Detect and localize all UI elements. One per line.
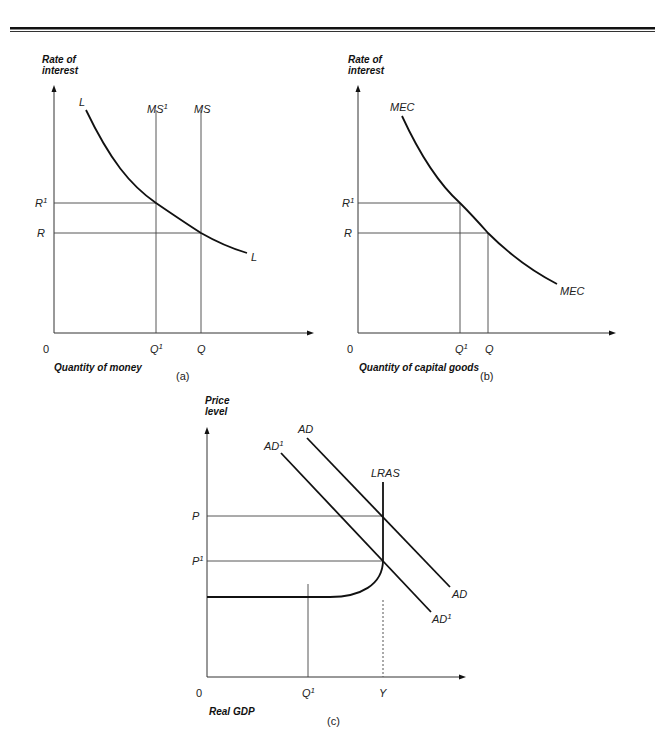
panel-b-origin: 0	[347, 343, 353, 355]
panel-c-ad1-top-label: AD1	[263, 439, 284, 452]
panel-c-ad-bottom-label: AD	[451, 588, 467, 600]
panel-a-money-market: Rate of interest L L MS1 MS R1 R 0 Q1 Q …	[35, 54, 314, 382]
panel-c-x-arrow-icon	[459, 675, 466, 680]
panel-c-xlabel: Real GDP	[209, 706, 255, 717]
panel-a-y-arrow-icon	[52, 85, 57, 92]
panel-a-origin: 0	[43, 343, 49, 355]
panel-b-investment: Rate of interest MEC MEC R1 R 0 Q1 Q Qua…	[342, 54, 616, 382]
figure: Rate of interest L L MS1 MS R1 R 0 Q1 Q …	[0, 0, 665, 751]
panel-b-r-label: R	[344, 227, 352, 239]
panel-a-ylabel-line2: interest	[42, 65, 79, 76]
panel-b-x-arrow-icon	[609, 331, 616, 336]
panel-a-ms-label: MS	[194, 103, 211, 115]
panel-c-origin: 0	[196, 687, 202, 699]
panel-a-r1-label: R1	[35, 196, 47, 209]
panel-b-r1-label: R1	[342, 196, 354, 209]
panel-c-q1-label: Q1	[302, 686, 315, 699]
panel-a-q-label: Q	[197, 343, 206, 355]
panel-a-l-curve	[86, 110, 247, 253]
panel-b-ylabel-line2: interest	[348, 65, 385, 76]
panel-a-caption: (a)	[176, 370, 189, 382]
panel-a-xlabel: Quantity of money	[54, 362, 142, 373]
panel-a-l-bottom-label: L	[251, 251, 257, 263]
panel-b-q1-label: Q1	[455, 342, 468, 355]
panel-c-y-arrow-icon	[205, 427, 210, 434]
panel-a-r-label: R	[37, 227, 45, 239]
panel-b-ylabel-line1: Rate of	[348, 54, 384, 65]
panel-c-p1-label: P1	[192, 554, 204, 567]
panel-c-ylabel-line1: Price	[205, 395, 230, 406]
panel-c-ad-as: Price level AD AD1 LRAS AD AD1 P P1 0 Q1…	[192, 395, 467, 727]
panel-c-caption: (c)	[327, 715, 340, 727]
panel-b-caption: (b)	[480, 370, 493, 382]
panel-c-ad1-bottom-label: AD1	[431, 612, 452, 625]
panel-b-xlabel: Quantity of capital goods	[359, 362, 479, 373]
panel-b-mec-top-label: MEC	[390, 101, 415, 113]
panel-c-ad-top-label: AD	[297, 423, 313, 435]
panel-a-x-arrow-icon	[307, 331, 314, 336]
panel-a-q1-label: Q1	[150, 342, 163, 355]
panel-c-ad1-line	[281, 453, 431, 612]
panel-c-ylabel-line2: level	[205, 406, 227, 417]
panel-a-l-top-label: L	[79, 96, 85, 108]
panel-a-ylabel-line1: Rate of	[42, 54, 78, 65]
panel-b-y-arrow-icon	[356, 85, 361, 92]
panel-c-lras-label: LRAS	[371, 467, 400, 479]
panel-c-lras-curve	[207, 482, 383, 597]
panel-a-ms1-label: MS1	[147, 102, 168, 115]
panel-b-mec-bottom-label: MEC	[560, 285, 585, 297]
panel-c-y-label: Y	[379, 687, 387, 699]
panel-b-q-label: Q	[485, 343, 494, 355]
panel-c-p-label: P	[192, 510, 200, 522]
panel-c-ad-line	[307, 438, 450, 587]
header-rule	[10, 27, 655, 32]
panel-b-mec-curve	[402, 116, 557, 284]
